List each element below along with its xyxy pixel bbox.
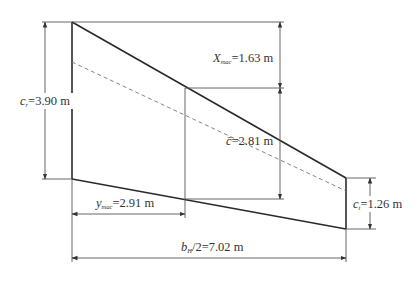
leading-edge (72, 22, 346, 178)
dimension-y-mac: ymac=2.91 m (72, 196, 185, 214)
svg-text:ct=1.26 m: ct=1.26 m (353, 197, 402, 211)
svg-text:ymac=2.91 m: ymac=2.91 m (94, 196, 154, 210)
svg-text:cr=3.90 m: cr=3.90 m (20, 94, 70, 108)
quarter-chord-line (72, 62, 346, 191)
svg-text:bH/2=7.02 m: bH/2=7.02 m (181, 240, 244, 254)
dimension-tip-chord: ct=1.26 m (352, 178, 410, 229)
dimension-x-mac: Xmac=1.63 m (212, 22, 280, 88)
dimension-half-span: bH/2=7.02 m (72, 240, 346, 258)
dimension-root-chord: cr=3.90 m (18, 22, 76, 179)
svg-text:c̄=2.81 m: c̄=2.81 m (226, 134, 274, 148)
svg-text:Xmac=1.63 m: Xmac=1.63 m (212, 51, 274, 65)
wing-planform-diagram: cr=3.90 m Xmac=1.63 m c̄=2.81 m ct=1.26 … (0, 0, 418, 282)
dimension-mac-chord: c̄=2.81 m (226, 88, 280, 199)
